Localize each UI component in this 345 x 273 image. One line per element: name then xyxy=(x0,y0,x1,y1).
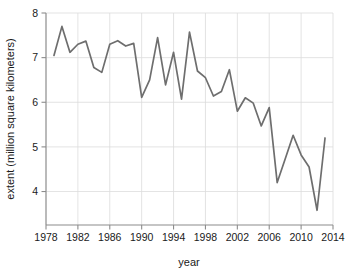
line-chart: 1978198219861990199419982002200620102014… xyxy=(0,0,345,273)
x-tick-label: 1990 xyxy=(130,231,154,243)
y-tick-label: 6 xyxy=(32,96,38,108)
x-tick-label: 2014 xyxy=(321,231,345,243)
y-tick-label: 5 xyxy=(32,141,38,153)
y-tick-label: 4 xyxy=(32,185,38,197)
y-axis-title: extent (million square kilometers) xyxy=(4,38,16,199)
y-tick-label: 7 xyxy=(32,51,38,63)
x-tick-label: 1986 xyxy=(98,231,122,243)
chart-container: 1978198219861990199419982002200620102014… xyxy=(0,0,345,273)
x-tick-label: 2006 xyxy=(258,231,282,243)
x-tick-label: 1994 xyxy=(162,231,186,243)
x-tick-label: 2010 xyxy=(289,231,313,243)
x-tick-label: 1982 xyxy=(66,231,90,243)
plot-area-background xyxy=(46,13,333,225)
x-tick-label: 1978 xyxy=(34,231,58,243)
x-tick-label: 1998 xyxy=(194,231,218,243)
y-tick-label: 8 xyxy=(32,7,38,19)
x-tick-label: 2002 xyxy=(226,231,250,243)
x-axis-title: year xyxy=(178,256,200,268)
